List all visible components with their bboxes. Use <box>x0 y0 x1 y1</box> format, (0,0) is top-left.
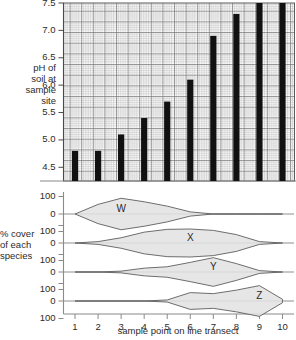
ph-tick-label: 7.5 <box>26 0 56 8</box>
kite-shape-group <box>75 198 282 316</box>
kite-y-ticks <box>59 197 64 319</box>
ph-axis-title-line-2: soil at <box>2 73 56 84</box>
cover-axis-title-line-1: % cover <box>0 228 48 239</box>
ph-bar <box>164 102 170 181</box>
kite-species-label: W <box>116 203 126 214</box>
ph-tick-label: 6.5 <box>26 51 56 62</box>
ph-bar <box>233 14 239 181</box>
ph-axis-title-line-4: site <box>2 95 56 106</box>
cover-tick-label: 0 <box>32 266 56 277</box>
cover-tick-label: 0 <box>32 295 56 306</box>
ph-tick-label: 7.0 <box>26 24 56 35</box>
cover-tick-label: 100 <box>32 312 56 323</box>
cover-axis-title-line-3: species <box>0 250 48 261</box>
ph-axis-title-line-1: pH of <box>2 62 56 73</box>
ph-bar <box>118 134 124 181</box>
figure-root: 7.57.06.56.05.55.04.5 pH of soil at samp… <box>0 0 296 340</box>
ph-bar <box>187 80 193 181</box>
ph-bar <box>256 3 262 181</box>
ph-bar <box>210 36 216 181</box>
cover-axis-title-line-2: of each <box>0 239 48 250</box>
ph-axis-title-line-3: sample <box>2 84 56 95</box>
ph-y-ticks <box>59 3 64 167</box>
kite-species-label: Z <box>256 290 262 301</box>
kite-species-label: Y <box>210 261 217 272</box>
cover-tick-label: 0 <box>32 208 56 219</box>
kite-species-label: X <box>187 232 194 243</box>
ph-bar <box>72 151 78 181</box>
kite-shape <box>75 258 282 287</box>
ph-bar <box>279 3 285 181</box>
cover-axis-title: % cover of each species <box>0 228 48 261</box>
ph-tick-label: 5.0 <box>26 133 56 144</box>
ph-tick-label: 4.5 <box>26 161 56 172</box>
kite-shape <box>75 198 282 230</box>
ph-axis-title: pH of soil at sample site <box>2 62 56 106</box>
kite-shape <box>75 286 282 317</box>
ph-tick-label: 5.5 <box>26 106 56 117</box>
cover-tick-label: 100 <box>32 190 56 201</box>
x-axis-title: sample point on line transect <box>60 325 296 336</box>
ph-bar <box>141 118 147 181</box>
ph-bar <box>95 151 101 181</box>
cover-tick-label: 100 <box>32 283 56 294</box>
kite-shape <box>75 229 282 257</box>
